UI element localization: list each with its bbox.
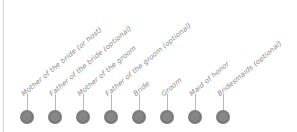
person-icon <box>188 110 202 124</box>
person-icon <box>76 110 90 124</box>
person-icon <box>216 110 230 124</box>
avatar-glyph <box>23 113 31 121</box>
avatar-glyph <box>135 113 143 121</box>
connector-line <box>55 94 56 111</box>
person-icon <box>132 110 146 124</box>
avatar-glyph <box>51 113 59 121</box>
connector-line <box>111 94 112 111</box>
connector-line <box>139 94 140 111</box>
connector-line <box>195 94 196 111</box>
role-label: Bride <box>132 80 152 98</box>
person-icon <box>20 110 34 124</box>
avatar-glyph <box>163 113 171 121</box>
avatar-glyph <box>191 113 199 121</box>
connector-line <box>83 94 84 111</box>
avatar-glyph <box>219 113 227 121</box>
person-icon <box>160 110 174 124</box>
avatar-glyph <box>107 113 115 121</box>
connector-line <box>167 94 168 111</box>
person-icon <box>104 110 118 124</box>
left-edge-divider <box>3 0 4 132</box>
role-label: Groom <box>160 76 184 98</box>
connector-line <box>223 94 224 111</box>
connector-line <box>27 94 28 111</box>
person-icon <box>48 110 62 124</box>
avatar-glyph <box>79 113 87 121</box>
